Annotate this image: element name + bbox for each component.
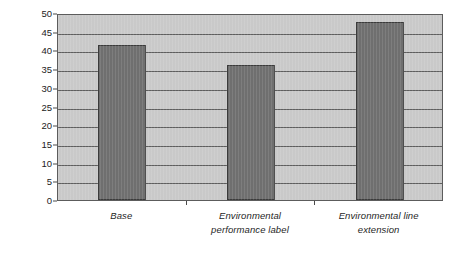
bar bbox=[98, 45, 146, 200]
x-axis-category-label: Base bbox=[57, 209, 186, 223]
x-axis-category-label: Environmentalperformance label bbox=[186, 209, 315, 237]
x-axis-category-label-line: extension bbox=[314, 223, 443, 237]
x-axis-category-label-line: performance label bbox=[186, 223, 315, 237]
x-axis-category-label-line: Environmental bbox=[186, 209, 315, 223]
y-axis-tick-label: 40 bbox=[30, 47, 52, 57]
y-axis-tick-label: 5 bbox=[30, 178, 52, 188]
y-axis-tick-label: 15 bbox=[30, 140, 52, 150]
x-axis-category-label-line: Environmental line bbox=[314, 209, 443, 223]
bar bbox=[356, 22, 404, 200]
y-axis-tick-label: 0 bbox=[30, 196, 52, 206]
x-axis-category-labels: BaseEnvironmentalperformance labelEnviro… bbox=[57, 209, 443, 251]
y-axis-tick-label: 35 bbox=[30, 65, 52, 75]
y-axis-tick-label: 10 bbox=[30, 159, 52, 169]
y-axis-tick-label: 50 bbox=[30, 9, 52, 19]
plot-area bbox=[57, 14, 443, 201]
y-axis-tick-labels: 50454035302520151050 bbox=[30, 14, 52, 201]
x-axis-category-label-line: Base bbox=[57, 209, 186, 223]
x-axis-tick-mark bbox=[314, 201, 315, 205]
y-axis-tick-label: 45 bbox=[30, 28, 52, 38]
y-axis-tick-label: 30 bbox=[30, 84, 52, 94]
x-axis-tick-mark bbox=[186, 201, 187, 205]
bar bbox=[227, 65, 275, 200]
y-axis-tick-label: 20 bbox=[30, 121, 52, 131]
y-axis-tick-label: 25 bbox=[30, 103, 52, 113]
bar-chart: % choice share 50454035302520151050 Base… bbox=[0, 0, 462, 254]
x-axis-category-label: Environmental lineextension bbox=[314, 209, 443, 237]
